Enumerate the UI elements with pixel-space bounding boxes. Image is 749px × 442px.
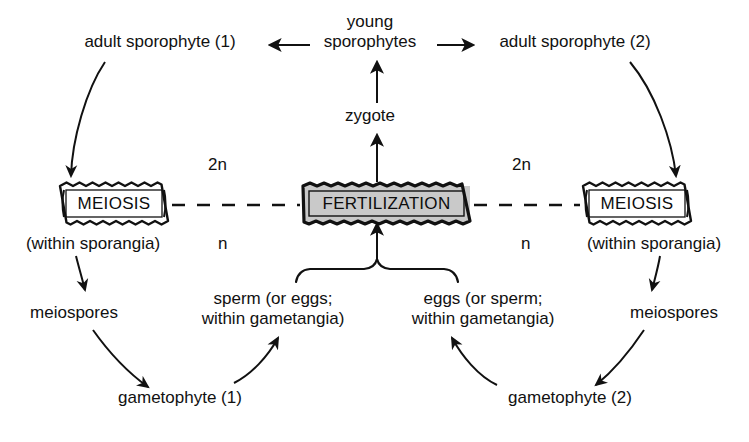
arrow-adult2-to-meiosis bbox=[630, 62, 676, 176]
arrow-gametophyte1-to-sperm bbox=[234, 338, 278, 383]
ploidy-2n-right: 2n bbox=[512, 155, 531, 175]
ploidy-n-left: n bbox=[218, 234, 227, 254]
label-adult-sporophyte-1: adult sporophyte (1) bbox=[60, 32, 260, 52]
label-adult-sporophyte-2: adult sporophyte (2) bbox=[470, 32, 680, 52]
label-meiospores-right: meiospores bbox=[614, 303, 734, 323]
arrow-meiospores-to-gametophyte1 bbox=[93, 330, 148, 387]
arrow-meiosis-to-meiospores bbox=[76, 256, 85, 290]
label-gametophyte-2: gametophyte (2) bbox=[490, 388, 650, 408]
arrow-adult1-to-meiosis bbox=[71, 62, 105, 176]
arrow-meiosis-to-meiospores-right bbox=[652, 256, 660, 290]
arrow-meiospores-to-gametophyte2 bbox=[596, 330, 644, 385]
label-within-sporangia-right: (within sporangia) bbox=[570, 234, 738, 254]
arrow-gametophyte2-to-eggs bbox=[452, 338, 497, 385]
label-meiospores-left: meiospores bbox=[14, 303, 134, 323]
label-sperm-line2: within gametangia) bbox=[178, 309, 368, 329]
meiosis-box-left: MEIOSIS bbox=[60, 186, 168, 221]
fertilization-box: FERTILIZATION bbox=[303, 186, 470, 221]
label-eggs-line1: eggs (or sperm; bbox=[388, 289, 578, 309]
gamete-brace bbox=[296, 259, 458, 282]
label-eggs-line2: within gametangia) bbox=[388, 309, 578, 329]
label-young-sporophytes-line2: sporophytes bbox=[305, 32, 435, 52]
label-young-sporophytes-line1: young bbox=[305, 12, 435, 32]
ploidy-2n-left: 2n bbox=[208, 155, 227, 175]
label-gametophyte-1: gametophyte (1) bbox=[100, 388, 260, 408]
meiosis-box-right: MEIOSIS bbox=[583, 186, 691, 221]
label-zygote: zygote bbox=[320, 106, 420, 126]
label-within-sporangia-left: (within sporangia) bbox=[14, 234, 172, 254]
meiosis-box-right-label: MEIOSIS bbox=[599, 194, 676, 214]
life-cycle-diagram: adult sporophyte (1) young sporophytes a… bbox=[0, 0, 749, 442]
label-sperm-line1: sperm (or eggs; bbox=[178, 289, 368, 309]
diagram-vector-overlay bbox=[0, 0, 749, 442]
fertilization-box-label: FERTILIZATION bbox=[321, 194, 453, 214]
meiosis-box-left-label: MEIOSIS bbox=[76, 194, 153, 214]
ploidy-n-right: n bbox=[521, 234, 530, 254]
